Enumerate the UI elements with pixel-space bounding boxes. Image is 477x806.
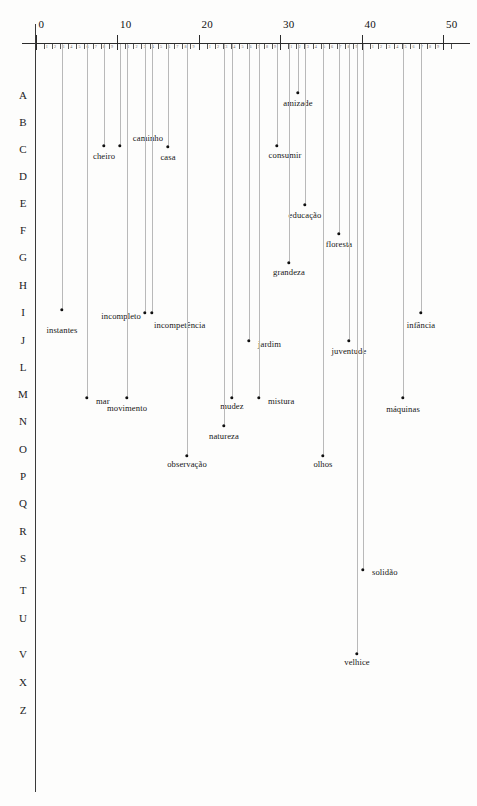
data-point-marker[interactable] bbox=[150, 311, 153, 314]
axis-tick-minor bbox=[150, 44, 151, 49]
axis-tick-major bbox=[199, 35, 200, 50]
data-point-marker[interactable] bbox=[287, 261, 290, 264]
row-label-u: U bbox=[16, 612, 30, 624]
data-point-label: mistura bbox=[268, 396, 294, 406]
axis-tick-minor bbox=[264, 44, 265, 49]
data-point-stem bbox=[87, 44, 88, 398]
axis-tick-label: 30 bbox=[283, 18, 294, 30]
data-point-label: observação bbox=[167, 459, 207, 469]
data-point-label: amizade bbox=[283, 98, 312, 108]
axis-tick-minor bbox=[109, 44, 110, 49]
data-point-marker[interactable] bbox=[303, 203, 306, 206]
row-label-o: O bbox=[16, 443, 30, 455]
data-point-marker[interactable] bbox=[222, 424, 225, 427]
axis-tick-minor bbox=[125, 44, 126, 49]
data-point-marker[interactable] bbox=[355, 652, 358, 655]
axis-minor-tick-number: 2 bbox=[54, 44, 56, 49]
axis-minor-tick-number: 1 bbox=[372, 44, 374, 49]
data-point-marker[interactable] bbox=[230, 396, 233, 399]
row-label-z: Z bbox=[16, 704, 30, 716]
axis-tick-minor bbox=[329, 44, 330, 49]
data-point-stem bbox=[363, 44, 364, 570]
axis-tick-minor bbox=[410, 44, 411, 49]
data-point-stem bbox=[323, 44, 324, 456]
vertical-axis-line bbox=[35, 24, 36, 792]
axis-minor-tick-number: 3 bbox=[388, 44, 390, 49]
data-point-stem bbox=[305, 44, 306, 205]
axis-minor-tick-number: 4 bbox=[315, 44, 317, 49]
row-label-t: T bbox=[16, 584, 30, 596]
axis-tick-minor bbox=[93, 44, 94, 49]
axis-tick-label: 40 bbox=[365, 18, 376, 30]
axis-minor-tick-number: 5 bbox=[404, 44, 406, 49]
data-point-marker[interactable] bbox=[401, 396, 404, 399]
data-point-marker[interactable] bbox=[257, 396, 260, 399]
data-point-stem bbox=[277, 44, 278, 146]
axis-minor-tick-number: 7 bbox=[176, 44, 178, 49]
row-label-s: S bbox=[16, 552, 30, 564]
data-point-stem bbox=[168, 44, 169, 147]
data-point-stem bbox=[298, 44, 299, 93]
axis-tick-minor bbox=[256, 44, 257, 49]
data-point-marker[interactable] bbox=[102, 144, 105, 147]
data-point-marker[interactable] bbox=[347, 339, 350, 342]
data-point-marker[interactable] bbox=[185, 454, 188, 457]
row-label-p: P bbox=[16, 470, 30, 482]
data-point-marker[interactable] bbox=[247, 339, 250, 342]
data-point-stem bbox=[187, 44, 188, 456]
axis-tick-minor bbox=[419, 44, 420, 49]
data-point-marker[interactable] bbox=[296, 91, 299, 94]
axis-tick-minor bbox=[313, 44, 314, 49]
axis-tick-major bbox=[117, 35, 118, 50]
data-point-label: jardim bbox=[258, 339, 281, 349]
axis-minor-tick-number: 5 bbox=[78, 44, 80, 49]
data-point-marker[interactable] bbox=[337, 232, 340, 235]
data-point-marker[interactable] bbox=[361, 568, 364, 571]
data-point-stem bbox=[349, 44, 350, 341]
axis-minor-tick-number: 4 bbox=[233, 44, 235, 49]
data-point-marker[interactable] bbox=[125, 396, 128, 399]
axis-tick-minor bbox=[158, 44, 159, 49]
row-label-h: H bbox=[16, 279, 30, 291]
data-point-marker[interactable] bbox=[321, 454, 324, 457]
data-point-label: consumir bbox=[269, 150, 302, 160]
data-point-label: velhice bbox=[344, 657, 370, 667]
data-point-marker[interactable] bbox=[85, 396, 88, 399]
data-point-marker[interactable] bbox=[143, 311, 146, 314]
data-point-marker[interactable] bbox=[60, 308, 63, 311]
axis-tick-minor bbox=[337, 44, 338, 49]
data-point-label: solidão bbox=[372, 567, 398, 577]
row-label-d: D bbox=[16, 170, 30, 182]
axis-minor-tick-number: 6 bbox=[413, 44, 415, 49]
data-point-label: movimento bbox=[107, 403, 147, 413]
axis-minor-tick-number: 2 bbox=[217, 44, 219, 49]
axis-minor-tick-number: 5 bbox=[160, 44, 162, 49]
data-point-marker[interactable] bbox=[419, 311, 422, 314]
data-point-marker[interactable] bbox=[118, 144, 121, 147]
data-point-stem bbox=[259, 44, 260, 398]
data-point-marker[interactable] bbox=[275, 144, 278, 147]
data-point-stem bbox=[403, 44, 404, 398]
axis-tick-minor bbox=[166, 44, 167, 49]
row-label-f: F bbox=[16, 224, 30, 236]
axis-tick-minor bbox=[141, 44, 142, 49]
axis-tick-minor bbox=[174, 44, 175, 49]
axis-tick-label: 20 bbox=[202, 18, 213, 30]
data-point-label: juventude bbox=[332, 346, 367, 356]
data-point-marker[interactable] bbox=[166, 145, 169, 148]
axis-minor-tick-number: 9 bbox=[111, 44, 113, 49]
data-point-stem bbox=[289, 44, 290, 263]
data-point-label: incompleto bbox=[101, 311, 141, 321]
data-point-stem bbox=[152, 44, 153, 313]
axis-tick-minor bbox=[207, 44, 208, 49]
axis-minor-tick-number: 2 bbox=[380, 44, 382, 49]
axis-tick-minor bbox=[101, 44, 102, 49]
data-point-stem bbox=[104, 44, 105, 146]
data-point-label: educação bbox=[289, 210, 322, 220]
axis-tick-minor bbox=[345, 44, 346, 49]
axis-tick-minor bbox=[427, 44, 428, 49]
data-point-stem bbox=[339, 44, 340, 234]
axis-minor-tick-number: 9 bbox=[193, 44, 195, 49]
data-point-stem bbox=[120, 44, 121, 146]
row-label-v: V bbox=[16, 648, 30, 660]
